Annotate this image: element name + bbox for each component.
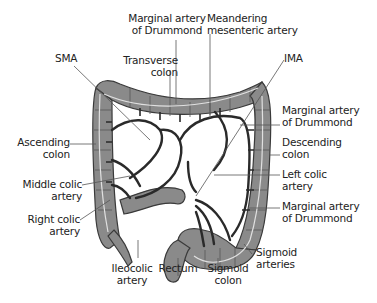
label-marginal-artery-right-lower: Marginal artery of Drummond xyxy=(282,200,359,224)
label-ileocolic-artery: Ileocolic artery xyxy=(104,262,160,286)
label-right-colic-artery: Right colic artery xyxy=(4,213,80,237)
label-marginal-artery-right-upper: Marginal artery of Drummond xyxy=(282,104,359,128)
mesenteric-vessels xyxy=(112,112,250,246)
label-ascending-colon: Ascending colon xyxy=(4,136,70,160)
label-sigmoid-colon: Sigmoid colon xyxy=(204,262,252,286)
label-middle-colic-artery: Middle colic artery xyxy=(4,178,82,202)
label-meandering-mesenteric-artery: Meandering mesenteric artery xyxy=(207,12,298,36)
label-rectum: Rectum xyxy=(156,262,200,274)
label-ima: IMA xyxy=(284,52,303,64)
label-transverse-colon: Transverse colon xyxy=(120,54,178,78)
label-marginal-artery-top: Marginal artery of Drummond xyxy=(112,12,222,36)
label-sigmoid-arteries: Sigmoid arteries xyxy=(256,246,297,270)
label-descending-colon: Descending colon xyxy=(282,136,342,160)
label-left-colic-artery: Left colic artery xyxy=(282,168,327,192)
label-sma: SMA xyxy=(55,52,77,64)
colon-blood-supply-diagram: Marginal artery of Drummond Meandering m… xyxy=(0,0,377,303)
